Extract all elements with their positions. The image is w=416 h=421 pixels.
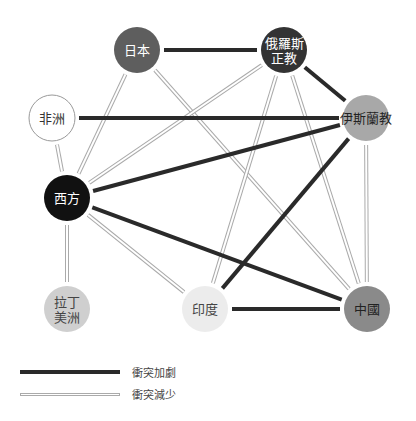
light-edges <box>57 65 367 292</box>
node-japan: 日本 <box>114 27 160 73</box>
node-label: 非洲 <box>39 111 65 126</box>
node-label: 俄羅斯 <box>265 36 304 51</box>
node-india: 印度 <box>182 286 228 332</box>
node-label: 拉丁 <box>54 295 80 310</box>
node-west: 西方 <box>44 175 90 221</box>
civilization-conflict-diagram: 日本俄羅斯正教非洲伊斯蘭教西方拉丁美洲印度中國 <box>0 0 416 421</box>
edge-orthodox-india-light <box>213 76 276 283</box>
edge-africa-west-light <box>57 145 62 172</box>
node-china: 中國 <box>344 286 390 332</box>
legend: 衝突加劇 衝突減少 <box>20 361 176 405</box>
legend-light-label: 衝突減少 <box>132 386 176 402</box>
edge-japan-west-light <box>79 74 126 173</box>
edge-islam-china-light <box>366 145 367 282</box>
node-label: 正教 <box>271 51 297 66</box>
edge-west-china-heavy <box>92 207 341 299</box>
node-latin_america: 拉丁美洲 <box>44 286 90 332</box>
node-label: 伊斯蘭教 <box>340 111 392 126</box>
node-label: 日本 <box>124 43 150 58</box>
legend-light: 衝突減少 <box>20 383 176 405</box>
edge-west-india-light <box>88 215 184 292</box>
edge-west-islam-heavy <box>93 125 340 191</box>
light-line-swatch <box>20 393 120 396</box>
heavy-line-swatch <box>20 370 120 374</box>
legend-heavy-label: 衝突加劇 <box>132 364 176 380</box>
node-label: 西方 <box>54 191 80 206</box>
edge-orthodox-west-light <box>89 65 261 183</box>
node-label: 美洲 <box>54 310 80 325</box>
legend-heavy: 衝突加劇 <box>20 361 176 383</box>
edge-orthodox-islam-heavy <box>305 67 345 101</box>
nodes: 日本俄羅斯正教非洲伊斯蘭教西方拉丁美洲印度中國 <box>29 27 392 332</box>
node-orthodox: 俄羅斯正教 <box>261 27 307 73</box>
node-label: 中國 <box>354 302 380 317</box>
node-islam: 伊斯蘭教 <box>340 95 392 141</box>
node-africa: 非洲 <box>29 95 75 141</box>
node-label: 印度 <box>192 302 218 317</box>
